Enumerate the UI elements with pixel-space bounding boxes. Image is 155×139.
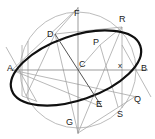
label-P: P (93, 38, 99, 47)
main-ellipse (1, 16, 150, 121)
label-E: E (96, 100, 102, 109)
label-x: x (118, 61, 122, 70)
label-S: S (117, 110, 123, 119)
line-G-Q (78, 96, 136, 133)
label-A: A (7, 64, 13, 73)
line-A-F (12, 8, 78, 70)
ellipse-construction-figure: F R D P A C x B Q E S G (0, 0, 155, 139)
label-Q: Q (134, 95, 141, 104)
label-B: B (141, 64, 147, 73)
label-G: G (66, 118, 73, 127)
geometry-canvas (0, 0, 155, 139)
label-D: D (47, 30, 54, 39)
label-R: R (119, 15, 126, 24)
main-ellipse-group (1, 16, 150, 121)
label-C: C (79, 60, 86, 69)
label-F: F (74, 9, 80, 18)
line-P-S (100, 45, 118, 107)
